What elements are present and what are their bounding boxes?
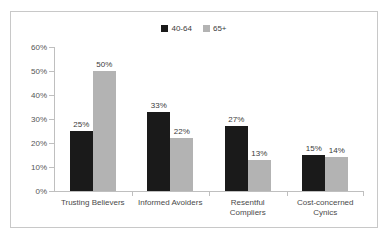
bar[interactable] bbox=[248, 160, 271, 191]
bar-slot: 25% bbox=[70, 47, 93, 191]
legend-label-65-plus: 65+ bbox=[213, 24, 227, 33]
y-axis-tick-label: 50% bbox=[31, 67, 47, 76]
y-axis-tick bbox=[49, 191, 54, 192]
bar-slot: 22% bbox=[170, 47, 193, 191]
plot-area: 0%10%20%30%40%50%60% 25%50%33%22%27%13%1… bbox=[54, 47, 364, 192]
bar-group: 15%14% bbox=[287, 47, 365, 191]
bar-group: 33%22% bbox=[132, 47, 210, 191]
bar-value-label: 25% bbox=[73, 120, 89, 129]
legend-swatch-icon-65-plus bbox=[203, 25, 210, 32]
chart-legend: 40-64 65+ bbox=[11, 24, 377, 33]
bar-value-label: 50% bbox=[96, 60, 112, 69]
legend-entry-40-64: 40-64 bbox=[161, 24, 191, 33]
bar-slot: 50% bbox=[93, 47, 116, 191]
legend-label-40-64: 40-64 bbox=[171, 24, 191, 33]
bar[interactable] bbox=[70, 131, 93, 191]
bar[interactable] bbox=[325, 157, 348, 191]
legend-entry-65-plus: 65+ bbox=[203, 24, 227, 33]
bar[interactable] bbox=[302, 155, 325, 191]
bar-slot: 27% bbox=[225, 47, 248, 191]
bar-slot: 14% bbox=[325, 47, 348, 191]
bar[interactable] bbox=[93, 71, 116, 191]
y-axis-tick-label: 0% bbox=[35, 187, 47, 196]
bar-value-label: 22% bbox=[174, 127, 190, 136]
x-axis-tick bbox=[287, 192, 288, 196]
x-axis-tick bbox=[363, 192, 364, 196]
bar-value-label: 33% bbox=[151, 101, 167, 110]
bar-value-label: 14% bbox=[329, 146, 345, 155]
bar[interactable] bbox=[170, 138, 193, 191]
x-axis-tick bbox=[132, 192, 133, 196]
legend-swatch-icon-40-64 bbox=[161, 25, 168, 32]
bar-value-label: 13% bbox=[251, 149, 267, 158]
bar-slot: 33% bbox=[147, 47, 170, 191]
bar-value-label: 15% bbox=[306, 144, 322, 153]
y-axis-tick-label: 20% bbox=[31, 139, 47, 148]
x-axis-tick bbox=[209, 192, 210, 196]
bar-slot: 13% bbox=[248, 47, 271, 191]
bar-slot: 15% bbox=[302, 47, 325, 191]
chart-container: 40-64 65+ 0%10%20%30%40%50%60% 25%50%33%… bbox=[10, 11, 378, 228]
bar-group: 25%50% bbox=[54, 47, 132, 191]
y-axis-tick-label: 60% bbox=[31, 43, 47, 52]
x-axis-category-label: Cost-concerned Cynics bbox=[277, 198, 375, 218]
y-axis-tick-label: 40% bbox=[31, 91, 47, 100]
bar[interactable] bbox=[225, 126, 248, 191]
y-axis-tick-label: 10% bbox=[31, 163, 47, 172]
y-axis-tick-label: 30% bbox=[31, 115, 47, 124]
bar-group: 27%13% bbox=[209, 47, 287, 191]
bar[interactable] bbox=[147, 112, 170, 191]
bar-value-label: 27% bbox=[228, 115, 244, 124]
